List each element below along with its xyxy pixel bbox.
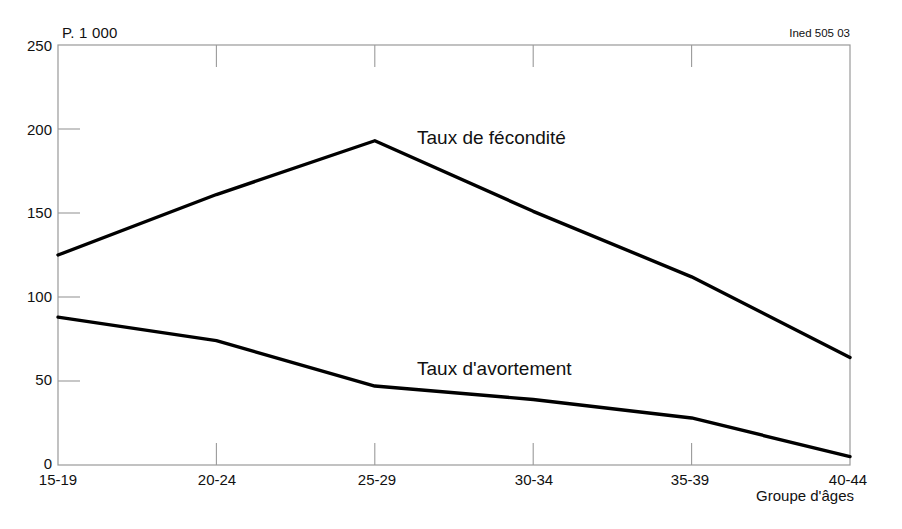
line-series-avortement xyxy=(58,317,850,456)
x-axis-ticks xyxy=(216,45,691,465)
chart-container: P. 1 000 Ined 505 03 250 200 150 100 50 … xyxy=(0,0,902,529)
plot-frame xyxy=(58,45,850,465)
plot-area xyxy=(0,0,902,529)
line-series-fecondite xyxy=(58,141,850,358)
